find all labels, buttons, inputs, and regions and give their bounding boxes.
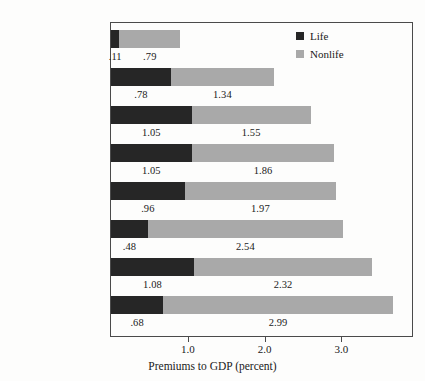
stacked-bar (111, 30, 180, 48)
value-label-life: 1.05 (126, 127, 176, 138)
bar-segment-nonlife (119, 30, 180, 48)
stacked-bar (111, 182, 336, 200)
value-label-nonlife: .79 (125, 51, 175, 62)
value-label-nonlife: 1.86 (238, 165, 288, 176)
chart-page: Romania (75).11.79Russia (49).781.34Hung… (0, 0, 425, 381)
stacked-bar (111, 68, 274, 86)
bar-segment-life (111, 182, 185, 200)
value-label-life: 1.08 (127, 279, 177, 290)
x-axis-tick-label: 2.0 (245, 343, 285, 355)
bar-segment-nonlife (192, 144, 335, 162)
bar-segment-nonlife (192, 106, 311, 124)
value-label-nonlife: 1.97 (235, 203, 285, 214)
value-label-life: .78 (116, 89, 166, 100)
value-label-nonlife: 1.34 (197, 89, 247, 100)
legend-swatch-life (296, 32, 304, 40)
bar-segment-life (111, 68, 171, 86)
legend-label: Nonlife (310, 49, 344, 60)
x-axis-tick (265, 337, 266, 342)
stacked-bar (111, 220, 343, 238)
bar-segment-nonlife (194, 258, 372, 276)
bar-segment-life (111, 144, 192, 162)
value-label-nonlife: 2.54 (220, 241, 270, 252)
stacked-bar (111, 106, 311, 124)
value-label-nonlife: 2.32 (258, 279, 308, 290)
value-label-life: .48 (104, 241, 154, 252)
x-axis-title: Premiums to GDP (percent) (0, 360, 425, 372)
value-label-life: 1.05 (126, 165, 176, 176)
bar-segment-nonlife (185, 182, 336, 200)
bar-segment-life (111, 220, 148, 238)
chart-legend: LifeNonlife (296, 28, 344, 64)
x-axis-tick-label: 1.0 (168, 343, 208, 355)
bar-segment-life (111, 296, 163, 314)
x-axis-tick-label: 3.0 (321, 343, 361, 355)
stacked-bar (111, 296, 393, 314)
value-label-life: .96 (123, 203, 173, 214)
x-axis-tick (188, 337, 189, 342)
bar-segment-nonlife (163, 296, 393, 314)
value-label-nonlife: 1.55 (226, 127, 276, 138)
bar-segment-life (111, 30, 119, 48)
x-axis-tick (341, 337, 342, 342)
bar-segment-nonlife (171, 68, 274, 86)
value-label-nonlife: 2.99 (253, 317, 303, 328)
legend-item[interactable]: Life (296, 28, 344, 44)
value-label-life: .68 (112, 317, 162, 328)
bar-segment-nonlife (148, 220, 343, 238)
legend-swatch-nonlife (296, 50, 304, 58)
bar-segment-life (111, 258, 194, 276)
bar-segment-life (111, 106, 192, 124)
stacked-bar (111, 258, 372, 276)
stacked-bar (111, 144, 334, 162)
legend-label: Life (310, 31, 328, 42)
legend-item[interactable]: Nonlife (296, 46, 344, 62)
